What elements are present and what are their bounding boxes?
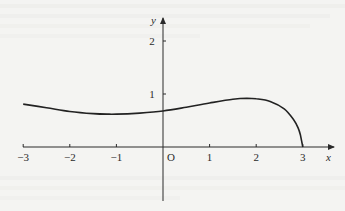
origin-label: O xyxy=(167,151,175,163)
y-tick-label: 2 xyxy=(149,35,155,47)
background-bleed xyxy=(0,4,345,200)
y-axis-label: y xyxy=(150,14,156,26)
chart: −3−2−1123 12 x y O xyxy=(0,0,345,211)
x-tick-label: −2 xyxy=(64,151,76,163)
x-axis-label: x xyxy=(325,151,331,163)
x-tick-label: −1 xyxy=(111,151,123,163)
x-tick-label: 1 xyxy=(207,151,213,163)
x-tick-label: −3 xyxy=(17,151,29,163)
x-tick-label: 3 xyxy=(300,151,306,163)
y-tick-label: 1 xyxy=(149,88,155,100)
x-tick-label: 2 xyxy=(253,151,259,163)
